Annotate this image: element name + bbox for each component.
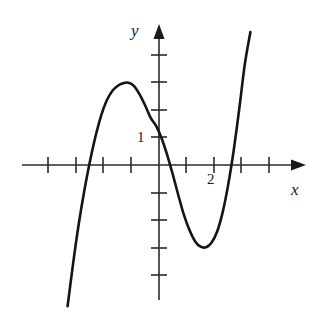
plot-canvas	[0, 0, 318, 312]
x-axis-arrowhead-icon	[291, 160, 306, 171]
x-axis-label: x	[291, 181, 299, 198]
cubic-graph-figure: y x 1 2	[0, 0, 318, 312]
x-tick-label-2: 2	[207, 172, 215, 187]
y-tick-label-1: 1	[137, 130, 145, 145]
y-axis-arrowhead-icon	[154, 24, 165, 39]
y-axis-label: y	[131, 22, 139, 39]
